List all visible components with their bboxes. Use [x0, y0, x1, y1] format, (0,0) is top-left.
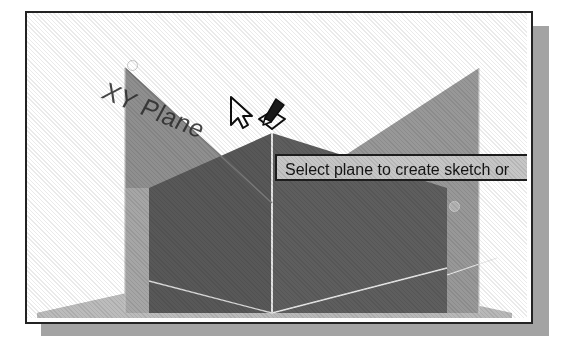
viewport-canvas[interactable]: XY Plane Select plane to create sketch o… — [27, 13, 527, 318]
arrow-cursor — [231, 97, 252, 128]
grip-handle-top-left[interactable] — [127, 60, 138, 71]
cad-viewport-figure: XY Plane Select plane to create sketch o… — [0, 0, 578, 355]
xy-plane-skirt — [125, 188, 149, 313]
plane-selection-tooltip: Select plane to create sketch or — [275, 154, 527, 181]
cursor-svg — [227, 95, 289, 143]
create-sketch-icon — [259, 99, 285, 129]
cursor-group — [227, 95, 289, 143]
viewport-frame: XY Plane Select plane to create sketch o… — [25, 11, 533, 324]
grip-handle-right[interactable] — [449, 201, 460, 212]
